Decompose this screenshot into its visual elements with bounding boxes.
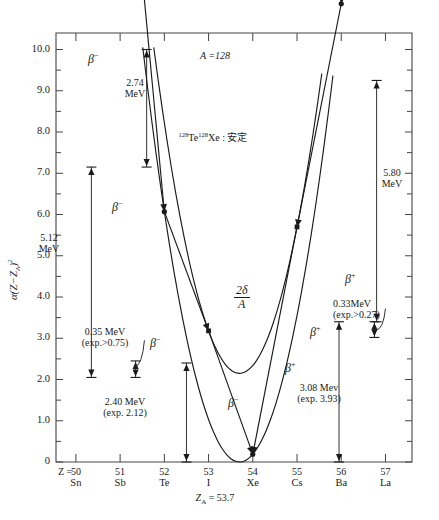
figure-mass-parabola: α(Z−ZA)2 10.09.08.07.06.05.04.03.02.01.0… xyxy=(0,0,439,520)
two-delta-denominator: A xyxy=(234,298,250,311)
y-tick-label: 2.0 xyxy=(8,373,50,385)
y-tick-label: 0 xyxy=(8,455,50,467)
x-tick-symbol: La xyxy=(370,477,400,489)
x-tick-symbol: Ba xyxy=(326,477,356,489)
x-tick-symbol: Xe xyxy=(238,477,268,489)
x-tick-number: 56 xyxy=(326,466,356,477)
measure-bar-0-head-down xyxy=(144,159,150,166)
measure-bar-5-head-up xyxy=(371,323,377,330)
y-tick-label: 10.0 xyxy=(8,43,50,55)
x-tick-number: 51 xyxy=(105,466,135,477)
nuclide-point-odd-odd xyxy=(206,328,211,333)
y-tick-label: 4.0 xyxy=(8,290,50,302)
xe-symbol: Xe xyxy=(208,132,220,143)
x-tick-symbol: Te xyxy=(149,477,179,489)
nuclide-point-even-even xyxy=(162,209,167,214)
beta-arrow-te-i xyxy=(164,212,206,324)
beta-arrow-cs-xe xyxy=(254,227,297,447)
two-delta-numerator: 2δ xyxy=(234,284,250,298)
energy-5-80-value: 5.80 xyxy=(383,167,401,178)
xe-mass-number: 128 xyxy=(198,131,208,138)
y-tick-label: 7.0 xyxy=(8,166,50,178)
energy-2-40-value: 2.40 MeV xyxy=(105,396,146,407)
energy-5-80-unit: MeV xyxy=(382,178,403,189)
x-axis-z-prefix: Z = xyxy=(58,466,84,477)
energy-0-33-label: 0.33MeV (exp.>0.27) xyxy=(333,298,417,320)
energy-0-33-exp: (exp.>0.27) xyxy=(333,309,380,320)
nuclide-point-even-even xyxy=(250,452,255,457)
energy-5-12-unit: MeV xyxy=(39,243,60,254)
energy-2-40-label: 2.40 MeV (exp. 2.12) xyxy=(82,396,168,418)
energy-0-35-exp: (exp.>0.75) xyxy=(82,337,129,348)
energy-2-40-exp: (exp. 2.12) xyxy=(103,407,147,418)
chart-canvas xyxy=(0,0,439,520)
energy-2-74-label: 2.74 MeV xyxy=(113,77,157,99)
beta-plus-label-cs-xe: β+ xyxy=(310,325,321,339)
y-tick-label: 8.0 xyxy=(8,125,50,137)
y-tick-label: 1.0 xyxy=(8,414,50,426)
x-tick-symbol: Sn xyxy=(61,477,91,489)
beta-minus-label-sb-te: β− xyxy=(112,200,123,214)
stable-nuclide-label: 128Te128Xe : 安定 xyxy=(143,131,283,144)
beta-arrow-ba-cs xyxy=(298,4,341,220)
energy-2-74-value: 2.74 xyxy=(126,77,144,88)
energy-0-33-value: 0.33MeV xyxy=(333,298,371,309)
te-mass-number: 128 xyxy=(179,131,189,138)
x-tick-number: 57 xyxy=(370,466,400,477)
x-tick-number: 55 xyxy=(282,466,312,477)
y-tick-label: 6.0 xyxy=(8,208,50,220)
y-tick-label: 3.0 xyxy=(8,331,50,343)
x-tick-symbol: Cs xyxy=(282,477,312,489)
x-tick-number: 52 xyxy=(149,466,179,477)
measure-bar-3-head-down xyxy=(183,454,189,461)
beta-arrow-sb-te xyxy=(120,0,164,204)
measure-bar-4-head-up xyxy=(336,323,342,330)
te-symbol: Te xyxy=(188,132,198,143)
parabola-odd-odd xyxy=(154,47,322,373)
measure-bar-2-head-down xyxy=(133,369,139,376)
energy-5-12-value: 5.12 xyxy=(40,232,58,243)
energy-5-12-label: 5.12 MeV xyxy=(27,232,71,254)
measure-bar-1-head-up xyxy=(88,168,94,175)
energy-3-08-label: 3.08 Mev (exp. 3.93) xyxy=(276,382,362,404)
energy-5-80-label: 5.80 MeV xyxy=(370,167,414,189)
za-value-label: ZA = 53.7 xyxy=(150,492,280,507)
x-tick-symbol: I xyxy=(194,477,224,489)
beta-plus-label-ba-cs: β+ xyxy=(345,272,356,286)
x-tick-symbol: Sb xyxy=(105,477,135,489)
y-tick-label: 9.0 xyxy=(8,84,50,96)
measure-bar-6-head-up xyxy=(374,81,380,88)
beta-arrow-i-xe xyxy=(209,331,251,447)
energy-3-08-exp: (exp. 3.93) xyxy=(297,393,341,404)
stable-text: : 安定 xyxy=(220,132,248,143)
x-tick-number: 53 xyxy=(194,466,224,477)
mass-number-label: A =128 xyxy=(180,50,250,61)
energy-2-74-unit: MeV xyxy=(125,88,146,99)
x-tick-number: 54 xyxy=(238,466,268,477)
za-number: = 53.7 xyxy=(206,492,234,503)
measure-bar-3-head-up xyxy=(183,364,189,371)
energy-0-35-value: 0.35 MeV xyxy=(85,326,126,337)
nuclide-point-odd-odd xyxy=(295,225,300,230)
beta-minus-label-te-i: β− xyxy=(150,336,161,350)
energy-0-35-label: 0.35 MeV (exp.>0.75) xyxy=(62,326,148,348)
beta-minus-label-i-xe: β− xyxy=(228,396,239,410)
two-delta-over-a-label: 2δ A xyxy=(234,284,278,311)
nuclide-point-even-even xyxy=(339,1,344,6)
measure-bar-5-head-down xyxy=(371,329,377,336)
measure-bar-1-head-down xyxy=(88,369,94,376)
beta-plus-label-la-ba: β+ xyxy=(285,361,296,375)
beta-minus-label-sn-sb: β− xyxy=(88,52,99,66)
energy-3-08-value: 3.08 Mev xyxy=(300,382,338,393)
